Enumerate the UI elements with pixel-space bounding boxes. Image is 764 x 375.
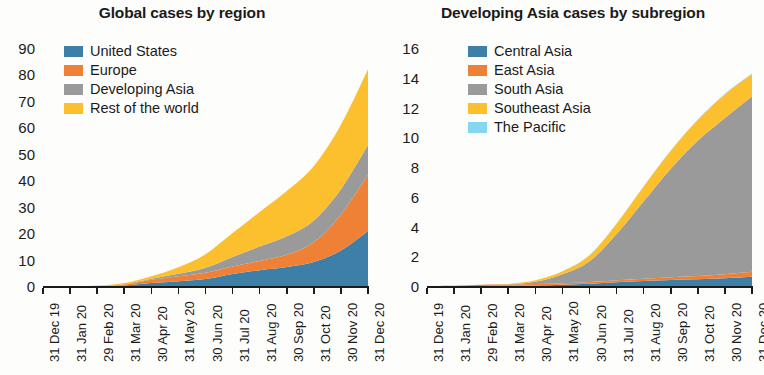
- x-axis-tick-label: 31 May 20: [567, 301, 580, 362]
- x-axis-tick-mark: [670, 288, 672, 294]
- x-axis-tick-mark: [535, 288, 537, 294]
- x-axis-left: 31 Dec 1931 Jan 2029 Feb 2031 Mar 2030 A…: [0, 0, 382, 375]
- x-axis-tick-label: 29 Feb 20: [102, 303, 115, 362]
- x-axis-tick-mark: [480, 288, 482, 294]
- x-axis-tick-mark: [589, 288, 591, 294]
- x-axis-tick-mark: [507, 288, 509, 294]
- x-axis-tick-label: 30 Nov 20: [346, 303, 359, 362]
- x-axis-tick-mark: [178, 288, 180, 294]
- x-axis-tick-mark: [616, 288, 618, 294]
- x-axis-tick-label: 30 Apr 20: [540, 306, 553, 362]
- x-axis-tick-label: 31 Mar 20: [513, 303, 526, 362]
- x-axis-tick-mark: [69, 288, 71, 294]
- x-axis-tick-mark: [96, 288, 98, 294]
- x-axis-tick-mark: [643, 288, 645, 294]
- x-axis-tick-mark: [151, 288, 153, 294]
- x-axis-tick-label: 31 Aug 20: [265, 303, 278, 362]
- x-axis-right: 31 Dec 1931 Jan 2029 Feb 2031 Mar 2030 A…: [382, 0, 764, 375]
- x-axis-tick-mark: [42, 288, 44, 294]
- x-axis-tick-mark: [286, 288, 288, 294]
- x-axis-tick-label: 30 Jun 20: [211, 305, 224, 362]
- x-axis-tick-label: 31 Oct 20: [319, 306, 332, 362]
- x-axis-tick-label: 31 Aug 20: [649, 303, 662, 362]
- chart-panel-developing-asia-by-subregion: Developing Asia cases by subregion 02468…: [382, 0, 764, 375]
- x-axis-tick-label: 29 Feb 20: [486, 303, 499, 362]
- chart-panel-global-cases-by-region: Global cases by region 01020304050607080…: [0, 0, 382, 375]
- figure-two-panel-area-charts: Global cases by region 01020304050607080…: [0, 0, 764, 375]
- x-axis-tick-label: 31 Dec 20: [757, 303, 764, 362]
- x-axis-tick-label: 31 Jan 20: [75, 305, 88, 362]
- x-axis-tick-label: 31 Dec 19: [432, 303, 445, 362]
- x-axis-tick-mark: [232, 288, 234, 294]
- x-axis-tick-mark: [313, 288, 315, 294]
- x-axis-tick-mark: [123, 288, 125, 294]
- x-axis-tick-label: 31 Jan 20: [459, 305, 472, 362]
- x-axis-tick-mark: [205, 288, 207, 294]
- x-axis-tick-mark: [426, 288, 428, 294]
- x-axis-tick-label: 31 Mar 20: [129, 303, 142, 362]
- x-axis-tick-label: 30 Apr 20: [156, 306, 169, 362]
- x-axis-tick-mark: [259, 288, 261, 294]
- x-axis-tick-mark: [562, 288, 564, 294]
- x-axis-tick-label: 31 Jul 20: [238, 309, 251, 362]
- x-axis-tick-mark: [751, 288, 753, 294]
- x-axis-tick-label: 31 Dec 19: [48, 303, 61, 362]
- x-axis-tick-mark: [340, 288, 342, 294]
- x-axis-tick-label: 30 Sep 20: [676, 303, 689, 362]
- x-axis-tick-label: 31 May 20: [183, 301, 196, 362]
- x-axis-tick-mark: [724, 288, 726, 294]
- x-axis-tick-mark: [367, 288, 369, 294]
- x-axis-tick-label: 30 Sep 20: [292, 303, 305, 362]
- x-axis-tick-label: 30 Nov 20: [730, 303, 743, 362]
- x-axis-tick-label: 31 Oct 20: [703, 306, 716, 362]
- x-axis-tick-mark: [453, 288, 455, 294]
- x-axis-tick-label: 30 Jun 20: [595, 305, 608, 362]
- x-axis-tick-mark: [697, 288, 699, 294]
- x-axis-tick-label: 31 Jul 20: [622, 309, 635, 362]
